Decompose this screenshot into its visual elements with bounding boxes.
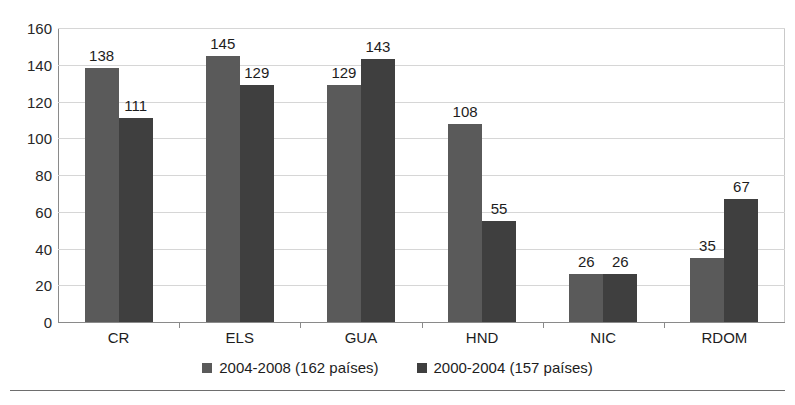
- y-axis-tick-label: 120: [6, 95, 52, 110]
- x-axis-tickmark: [543, 322, 544, 328]
- y-axis-tick-label: 40: [6, 242, 52, 257]
- y-axis-tick-label: 0: [6, 315, 52, 330]
- bar: [603, 274, 637, 322]
- bar: [448, 124, 482, 322]
- bar-value-label: 111: [109, 98, 163, 113]
- gridline: [58, 285, 785, 286]
- legend-swatch-icon: [202, 363, 212, 373]
- legend-entry[interactable]: 2004-2008 (162 países): [202, 360, 378, 375]
- gridline: [58, 212, 785, 213]
- bar-value-label: 129: [230, 65, 284, 80]
- gridline: [58, 138, 785, 139]
- chart-title-clipped: [0, 0, 795, 9]
- gridline: [58, 249, 785, 250]
- y-axis-tick-label: 80: [6, 168, 52, 183]
- y-axis-tick-label: 160: [6, 21, 52, 36]
- legend-label: 2000-2004 (157 países): [434, 360, 593, 375]
- bar-value-label: 35: [680, 238, 734, 253]
- bar: [327, 85, 361, 322]
- y-axis-tick-label: 140: [6, 58, 52, 73]
- bar: [724, 199, 758, 322]
- bar-value-label: 145: [196, 36, 250, 51]
- bar: [240, 85, 274, 322]
- x-axis-tickmark: [664, 322, 665, 328]
- plot-area: [58, 28, 785, 322]
- x-axis-category-label: CR: [58, 330, 179, 345]
- bar: [569, 274, 603, 322]
- x-axis-category-label: ELS: [179, 330, 300, 345]
- x-axis-category-label: RDOM: [664, 330, 785, 345]
- bar-value-label: 129: [317, 65, 371, 80]
- bottom-divider: [10, 390, 785, 391]
- bar: [482, 221, 516, 322]
- y-axis-tick-label: 20: [6, 278, 52, 293]
- bar: [361, 59, 395, 322]
- gridline: [58, 102, 785, 103]
- gridline: [58, 65, 785, 66]
- x-axis-category-label: NIC: [543, 330, 664, 345]
- bar-value-label: 143: [351, 39, 405, 54]
- x-axis-category-label: GUA: [300, 330, 421, 345]
- bar: [119, 118, 153, 322]
- bar-value-label: 108: [438, 104, 492, 119]
- x-axis-tickmark: [422, 322, 423, 328]
- bar: [690, 258, 724, 322]
- bar-value-label: 55: [472, 201, 526, 216]
- y-axis-tick-label: 60: [6, 205, 52, 220]
- y-axis-tick-label: 100: [6, 131, 52, 146]
- x-axis-category-label: HND: [422, 330, 543, 345]
- bar-value-label: 26: [593, 254, 647, 269]
- y-axis-tick-labels: 020406080100120140160: [0, 0, 52, 405]
- gridline: [58, 175, 785, 176]
- bar-value-label: 67: [714, 179, 768, 194]
- bar-value-label: 138: [75, 48, 129, 63]
- bar: [206, 56, 240, 322]
- legend-entry[interactable]: 2000-2004 (157 países): [417, 360, 593, 375]
- chart-legend: 2004-2008 (162 países)2000-2004 (157 paí…: [0, 360, 795, 375]
- legend-swatch-icon: [417, 363, 427, 373]
- x-axis-tickmark: [300, 322, 301, 328]
- x-axis-tickmark: [179, 322, 180, 328]
- legend-label: 2004-2008 (162 países): [219, 360, 378, 375]
- chart-figure: 020406080100120140160 CRELSGUAHNDNICRDOM…: [0, 0, 795, 405]
- gridline: [58, 28, 785, 29]
